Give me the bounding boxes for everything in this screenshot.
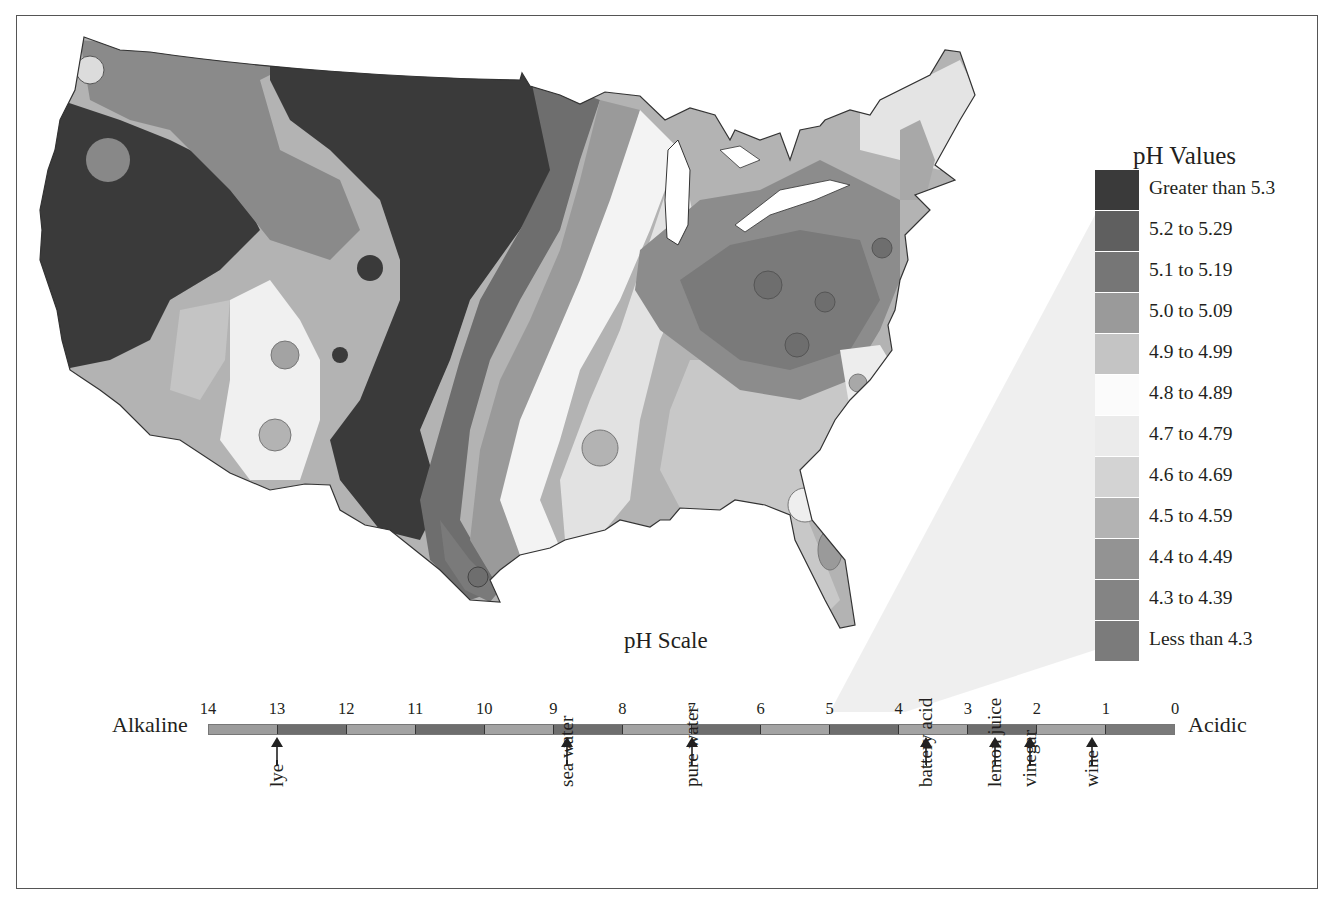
- substance-label: battery acid: [915, 698, 937, 787]
- arrow-leader: [566, 760, 568, 766]
- ph-tick-label: 13: [269, 699, 286, 719]
- ph-tick-label: 4: [895, 699, 903, 719]
- substance-label: lemon juice: [984, 698, 1006, 787]
- legend-swatch: [1095, 334, 1139, 374]
- substance-label: lye: [266, 764, 288, 787]
- legend-label: 4.3 to 4.39: [1149, 587, 1232, 609]
- ph-scale-segment: [761, 725, 830, 734]
- ph-tick-label: 1: [1102, 699, 1110, 719]
- legend-swatch: [1095, 621, 1139, 661]
- ph-tick-label: 5: [826, 699, 834, 719]
- legend-swatch: [1095, 293, 1139, 333]
- legend-item: 4.3 to 4.39: [1095, 580, 1315, 621]
- legend-item: 4.7 to 4.79: [1095, 416, 1315, 457]
- substance-label: sea water: [556, 716, 578, 787]
- legend-title: pH Values: [1133, 142, 1236, 170]
- legend-label: Greater than 5.3: [1149, 177, 1275, 199]
- arrow-leader: [691, 760, 693, 766]
- ph-scale-segment: [278, 725, 347, 734]
- legend-item: 5.1 to 5.19: [1095, 252, 1315, 293]
- legend-item: Greater than 5.3: [1095, 170, 1315, 211]
- legend-label: Less than 4.3: [1149, 628, 1252, 650]
- legend-swatch: [1095, 539, 1139, 579]
- legend-swatch: [1095, 170, 1139, 210]
- ph-scale-segment: [485, 725, 554, 734]
- legend-item: 5.0 to 5.09: [1095, 293, 1315, 334]
- legend-item: 4.5 to 4.59: [1095, 498, 1315, 539]
- legend: Greater than 5.35.2 to 5.295.1 to 5.195.…: [1095, 170, 1315, 662]
- legend-swatch: [1095, 580, 1139, 620]
- alkaline-label: Alkaline: [112, 712, 188, 738]
- substance-label: vinegar: [1019, 730, 1041, 787]
- ph-tick-label: 11: [407, 699, 423, 719]
- ph-tick-label: 12: [338, 699, 355, 719]
- ph-scale-segment: [1106, 725, 1174, 734]
- legend-label: 4.7 to 4.79: [1149, 423, 1232, 445]
- legend-swatch: [1095, 211, 1139, 251]
- ph-tick-label: 14: [200, 699, 217, 719]
- acidic-label: Acidic: [1188, 712, 1247, 738]
- legend-item: Less than 4.3: [1095, 621, 1315, 662]
- arrow-leader: [1091, 760, 1093, 766]
- legend-swatch: [1095, 252, 1139, 292]
- legend-label: 4.9 to 4.99: [1149, 341, 1232, 363]
- legend-item: 4.8 to 4.89: [1095, 375, 1315, 416]
- legend-swatch: [1095, 498, 1139, 538]
- ph-tick-label: 8: [618, 699, 626, 719]
- legend-item: 5.2 to 5.29: [1095, 211, 1315, 252]
- legend-label: 5.0 to 5.09: [1149, 300, 1232, 322]
- legend-label: 5.1 to 5.19: [1149, 259, 1232, 281]
- ph-tick-label: 2: [1033, 699, 1041, 719]
- substance-label: wine: [1081, 750, 1103, 787]
- ph-scale-segment: [347, 725, 416, 734]
- legend-item: 4.4 to 4.49: [1095, 539, 1315, 580]
- ph-tick-label: 10: [476, 699, 493, 719]
- legend-swatch: [1095, 457, 1139, 497]
- legend-label: 4.5 to 4.59: [1149, 505, 1232, 527]
- legend-swatch: [1095, 375, 1139, 415]
- legend-label: 4.8 to 4.89: [1149, 382, 1232, 404]
- legend-item: 4.9 to 4.99: [1095, 334, 1315, 375]
- ph-tick-label: 0: [1171, 699, 1179, 719]
- arrow-leader: [276, 760, 278, 766]
- legend-item: 4.6 to 4.69: [1095, 457, 1315, 498]
- ph-scale-segment: [416, 725, 485, 734]
- substance-label: pure water: [681, 706, 703, 787]
- ph-scale-segment: [1037, 725, 1106, 734]
- legend-swatch: [1095, 416, 1139, 456]
- arrow-leader: [926, 760, 928, 766]
- ph-tick-label: 3: [964, 699, 972, 719]
- ph-tick-label: 6: [756, 699, 764, 719]
- legend-label: 4.4 to 4.49: [1149, 546, 1232, 568]
- ph-scale-segment: [209, 725, 278, 734]
- ph-scale-segment: [830, 725, 899, 734]
- ph-scale-title: pH Scale: [624, 628, 708, 654]
- arrow-leader: [995, 760, 997, 766]
- arrow-leader: [1029, 760, 1031, 766]
- legend-label: 4.6 to 4.69: [1149, 464, 1232, 486]
- legend-label: 5.2 to 5.29: [1149, 218, 1232, 240]
